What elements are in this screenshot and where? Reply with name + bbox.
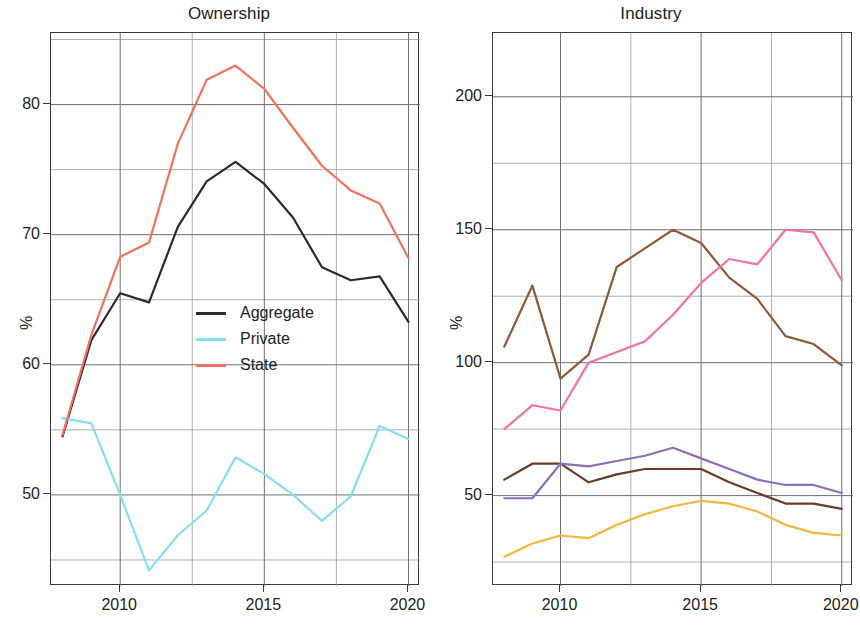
y-tick-mark [43, 233, 50, 234]
plot-lines-industry [493, 33, 853, 586]
panel-title-industry: Industry [436, 4, 860, 24]
panel-title-ownership: Ownership [14, 4, 444, 24]
legend-label: Aggregate [240, 304, 314, 322]
y-tick-label: 70 [0, 225, 40, 243]
y-axis-label-ownership: % [18, 316, 36, 330]
y-tick-mark [485, 95, 492, 96]
panel-industry: Industry 50100150200 201020152020 Constr… [430, 0, 860, 627]
y-tick-mark [485, 494, 492, 495]
series-line-real-estate [504, 230, 842, 429]
y-tick-label: 60 [0, 355, 40, 373]
legend-item-private[interactable]: Private [196, 326, 314, 352]
y-tick-mark [485, 228, 492, 229]
series-line-state [63, 66, 409, 436]
legend-label: Private [240, 330, 290, 348]
x-tick-mark [263, 585, 264, 592]
panel-ownership: Ownership % 50607080 201020152020 Aggreg… [0, 0, 430, 627]
x-tick-label: 2020 [823, 596, 859, 614]
y-tick-label: 150 [440, 220, 482, 238]
y-tick-label: 50 [0, 485, 40, 503]
y-tick-mark [43, 363, 50, 364]
y-tick-mark [43, 103, 50, 104]
x-tick-mark [559, 585, 560, 592]
x-tick-label: 2020 [390, 596, 426, 614]
y-tick-label: 200 [440, 87, 482, 105]
series-line-mining [504, 501, 842, 557]
x-tick-mark [700, 585, 701, 592]
y-axis-label-industry: % [448, 316, 466, 330]
legend-item-state[interactable]: State [196, 352, 314, 378]
y-tick-label: 50 [440, 486, 482, 504]
x-tick-mark [840, 585, 841, 592]
x-tick-mark [119, 585, 120, 592]
x-tick-label: 2010 [101, 596, 137, 614]
two-panel-line-chart-figure: Ownership % 50607080 201020152020 Aggreg… [0, 0, 860, 627]
legend-line-swatch-icon [196, 312, 226, 315]
x-tick-label: 2015 [246, 596, 282, 614]
x-tick-mark [407, 585, 408, 592]
series-line-construction [504, 230, 842, 379]
y-tick-mark [43, 493, 50, 494]
legend-line-swatch-icon [196, 364, 226, 367]
y-tick-label: 100 [440, 353, 482, 371]
x-tick-label: 2010 [542, 596, 578, 614]
plot-area-industry [492, 32, 852, 585]
legend-ownership: AggregatePrivateState [196, 300, 314, 378]
y-tick-label: 80 [0, 95, 40, 113]
series-line-services [504, 448, 842, 499]
series-line-private [63, 418, 409, 570]
legend-item-aggregate[interactable]: Aggregate [196, 300, 314, 326]
y-tick-mark [485, 361, 492, 362]
x-tick-label: 2015 [682, 596, 718, 614]
legend-line-swatch-icon [196, 338, 226, 341]
legend-label: State [240, 356, 277, 374]
